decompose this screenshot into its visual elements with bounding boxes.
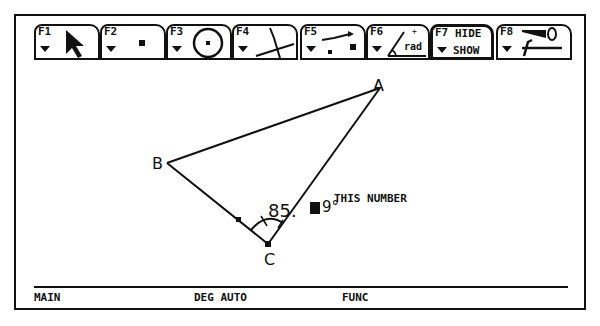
calculator-screen: F1 F2 F3 F4 (14, 14, 586, 310)
angle-measurement-value[interactable]: 85. (268, 202, 297, 220)
annotation-text: THIS NUMBER (334, 192, 407, 205)
point-label-b: B (152, 156, 163, 172)
status-graph-mode: FUNC (342, 291, 369, 304)
vertex-c-marker[interactable] (265, 241, 271, 247)
point-label-a: A (373, 78, 384, 94)
geometry-canvas[interactable] (16, 16, 586, 284)
point-label-c: C (264, 252, 275, 268)
status-angle-mode: DEG AUTO (194, 291, 247, 304)
point-on-bc[interactable] (236, 217, 241, 222)
segment-bc[interactable] (167, 163, 268, 244)
status-mode: MAIN (34, 291, 61, 304)
segment-ab[interactable] (167, 88, 380, 163)
status-bar: MAIN DEG AUTO FUNC (34, 286, 568, 308)
cursor-block (310, 202, 320, 214)
